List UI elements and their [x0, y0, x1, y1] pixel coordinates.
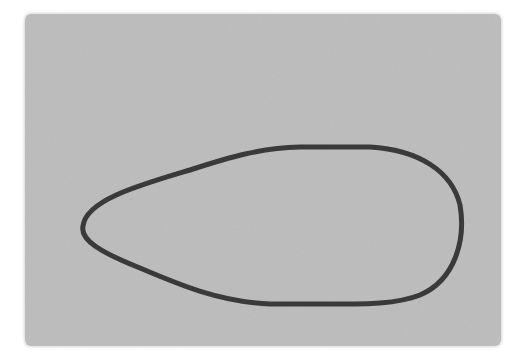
teardrop-loop-drawing	[0, 0, 530, 361]
paper-texture	[25, 14, 501, 346]
